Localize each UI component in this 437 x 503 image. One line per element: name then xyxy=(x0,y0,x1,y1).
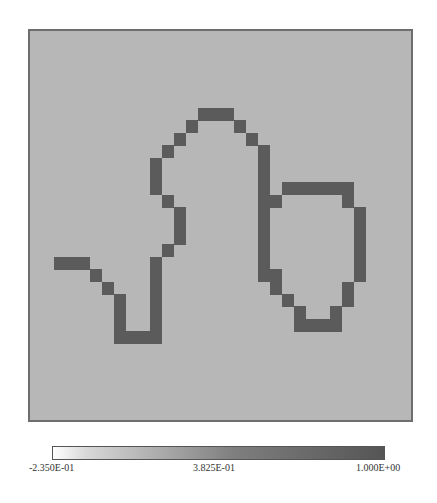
curve-cell xyxy=(354,269,366,282)
curve-cell xyxy=(354,207,366,220)
curve-cell xyxy=(150,269,162,282)
curve-cell xyxy=(258,220,270,233)
curve-cell xyxy=(258,207,270,220)
curve-cell xyxy=(234,120,246,133)
curve-cell xyxy=(126,331,138,344)
curve-cell xyxy=(354,257,366,270)
curve-cell xyxy=(318,182,330,195)
curve-cell xyxy=(114,319,126,332)
curve-cell xyxy=(258,244,270,257)
curve-cell xyxy=(270,269,282,282)
curve-cell xyxy=(306,319,318,332)
curve-cell xyxy=(54,257,66,270)
curve-cell xyxy=(306,182,318,195)
curve-cell xyxy=(162,145,174,158)
plot-frame xyxy=(28,29,413,422)
curve-cell xyxy=(258,158,270,171)
curve-cell xyxy=(174,220,186,233)
heatmap-grid xyxy=(30,31,411,420)
curve-cell xyxy=(270,195,282,208)
curve-cell xyxy=(210,108,222,121)
curve-cell xyxy=(282,182,294,195)
curve-cell xyxy=(150,182,162,195)
curve-cell xyxy=(354,232,366,245)
curve-cell xyxy=(162,244,174,257)
curve-cell xyxy=(150,282,162,295)
colorbar-max-label: 1.000E+00 xyxy=(356,462,400,473)
curve-cell xyxy=(342,195,354,208)
curve-cell xyxy=(138,331,150,344)
curve-cell xyxy=(342,294,354,307)
curve-cell xyxy=(162,195,174,208)
curve-cell xyxy=(102,282,114,295)
curve-cell xyxy=(258,257,270,270)
curve-cell xyxy=(258,182,270,195)
curve-cell xyxy=(150,306,162,319)
curve-cell xyxy=(342,282,354,295)
curve-cell xyxy=(198,108,210,121)
curve-cell xyxy=(222,108,234,121)
curve-cell xyxy=(174,207,186,220)
curve-cell xyxy=(66,257,78,270)
curve-cell xyxy=(186,120,198,133)
curve-cell xyxy=(174,133,186,146)
curve-cell xyxy=(294,182,306,195)
curve-cell xyxy=(90,269,102,282)
curve-cell xyxy=(294,319,306,332)
curve-cell xyxy=(282,294,294,307)
curve-cell xyxy=(294,306,306,319)
curve-cell xyxy=(258,145,270,158)
curve-cell xyxy=(258,269,270,282)
colorbar xyxy=(52,446,385,460)
curve-cell xyxy=(114,306,126,319)
curve-cell xyxy=(330,182,342,195)
curve-cell xyxy=(150,331,162,344)
colorbar-mid-label: 3.825E-01 xyxy=(193,462,235,473)
curve-cell xyxy=(174,232,186,245)
curve-cell xyxy=(114,294,126,307)
curve-cell xyxy=(258,195,270,208)
curve-cell xyxy=(270,282,282,295)
curve-cell xyxy=(150,294,162,307)
curve-cell xyxy=(354,220,366,233)
curve-cell xyxy=(150,257,162,270)
curve-cell xyxy=(330,306,342,319)
curve-cell xyxy=(258,232,270,245)
curve-cell xyxy=(354,244,366,257)
curve-cell xyxy=(342,182,354,195)
curve-cell xyxy=(150,170,162,183)
curve-cell xyxy=(78,257,90,270)
curve-cell xyxy=(246,133,258,146)
curve-cell xyxy=(150,319,162,332)
curve-cell xyxy=(330,319,342,332)
curve-cell xyxy=(114,331,126,344)
curve-cell xyxy=(150,158,162,171)
curve-cell xyxy=(258,170,270,183)
colorbar-min-label: -2.350E-01 xyxy=(29,462,74,473)
curve-cell xyxy=(318,319,330,332)
